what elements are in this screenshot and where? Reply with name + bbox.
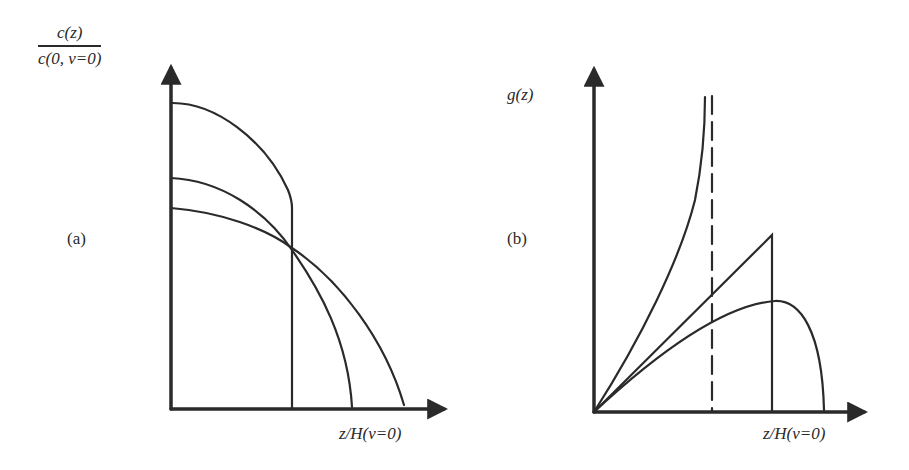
panel-a-tag: (a) [67, 229, 86, 249]
panel-b-tag: (b) [507, 229, 527, 249]
panel-a-plot [171, 68, 444, 409]
panel-a-y-axis-label: c(z) c(0, ν=0) [38, 23, 101, 69]
panel-a-x-axis-label: z/H(ν=0) [339, 424, 401, 444]
panel-a-y-label-numerator: c(z) [38, 23, 101, 45]
panel-a-top-curve [171, 103, 292, 409]
panel-b-x-axis-label: z/H(ν=0) [763, 424, 825, 444]
panel-a-y-label-denominator: c(0, ν=0) [38, 47, 101, 69]
panel-a-lower-curve [171, 208, 404, 405]
panel-b-plot [594, 70, 864, 412]
panel-b-y-axis-label: g(z) [507, 85, 533, 105]
panel-b-linear-line [594, 235, 772, 412]
figure-canvas [0, 0, 909, 470]
